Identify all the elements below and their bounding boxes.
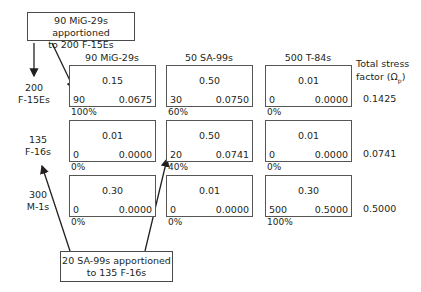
cell-percent: 0% bbox=[71, 162, 85, 172]
cell-stress: 0.0000 bbox=[119, 204, 152, 215]
cell-count: 90 bbox=[73, 94, 85, 105]
cell-f15e-t84: 0.01 0 0.0000 bbox=[265, 65, 352, 107]
cell-value: 0.30 bbox=[266, 185, 351, 196]
callout-bottom: 20 SA-99s apportioned to 135 F-16s bbox=[60, 251, 173, 282]
cell-count: 20 bbox=[170, 149, 182, 160]
column-header-t84: 500 T-84s bbox=[264, 52, 352, 63]
cell-value: 0.50 bbox=[167, 75, 252, 86]
cell-value: 0.01 bbox=[167, 185, 252, 196]
cell-count: 30 bbox=[170, 94, 182, 105]
total-stress-header: Total stress factor (Ωp) bbox=[356, 57, 409, 87]
cell-percent: 0% bbox=[267, 162, 281, 172]
cell-f16-mig29: 0.01 0 0.0000 bbox=[69, 120, 156, 162]
row-label-m1s: 300M-1s bbox=[18, 189, 58, 213]
column-header-mig29: 90 MiG-29s bbox=[68, 52, 156, 63]
cell-stress: 0.0000 bbox=[119, 149, 152, 160]
row-total-f15es: 0.1425 bbox=[363, 93, 396, 104]
cell-value: 0.50 bbox=[167, 130, 252, 141]
cell-f16-sa99: 0.50 20 0.0741 bbox=[166, 120, 253, 162]
cell-value: 0.01 bbox=[266, 130, 351, 141]
callout-top: 90 MiG-29s apportioned to 200 F-15Es bbox=[27, 12, 135, 41]
cell-percent: 60% bbox=[168, 107, 188, 117]
row-total-f16s: 0.0741 bbox=[363, 148, 396, 159]
cell-percent: 0% bbox=[267, 107, 281, 117]
cell-count: 0 bbox=[73, 149, 79, 160]
cell-value: 0.30 bbox=[70, 185, 155, 196]
cell-stress: 0.0000 bbox=[216, 204, 249, 215]
cell-stress: 0.0750 bbox=[216, 94, 249, 105]
cell-f15e-mig29: 0.15 90 0.0675 bbox=[69, 65, 156, 107]
cell-f16-t84: 0.01 0 0.0000 bbox=[265, 120, 352, 162]
cell-stress: 0.5000 bbox=[315, 204, 348, 215]
cell-stress: 0.0675 bbox=[119, 94, 152, 105]
cell-count: 0 bbox=[269, 94, 275, 105]
cell-percent: 0% bbox=[71, 217, 85, 227]
cell-percent: 0% bbox=[168, 217, 182, 227]
callout-bottom-line2: to 135 F-16s bbox=[61, 267, 172, 279]
cell-stress: 0.0741 bbox=[216, 149, 249, 160]
cell-m1-sa99: 0.01 0 0.0000 bbox=[166, 175, 253, 217]
callout-bottom-line1: 20 SA-99s apportioned bbox=[61, 255, 172, 267]
cell-m1-t84: 0.30 500 0.5000 bbox=[265, 175, 352, 217]
cell-count: 0 bbox=[170, 204, 176, 215]
column-header-sa99: 50 SA-99s bbox=[165, 52, 253, 63]
row-label-f16s: 135F-16s bbox=[18, 134, 58, 158]
cell-percent: 100% bbox=[71, 107, 97, 117]
cell-value: 0.01 bbox=[266, 75, 351, 86]
cell-count: 0 bbox=[269, 149, 275, 160]
cell-count: 0 bbox=[73, 204, 79, 215]
cell-stress: 0.0000 bbox=[315, 94, 348, 105]
row-total-m1s: 0.5000 bbox=[363, 203, 396, 214]
row-label-f15es: 200F-15Es bbox=[14, 82, 54, 106]
cell-stress: 0.0000 bbox=[315, 149, 348, 160]
cell-m1-mig29: 0.30 0 0.0000 bbox=[69, 175, 156, 217]
callout-top-line1: 90 MiG-29s apportioned bbox=[28, 15, 134, 39]
cell-count: 500 bbox=[269, 204, 287, 215]
cell-percent: 40% bbox=[168, 162, 188, 172]
cell-value: 0.01 bbox=[70, 130, 155, 141]
cell-value: 0.15 bbox=[70, 75, 155, 86]
cell-f15e-sa99: 0.50 30 0.0750 bbox=[166, 65, 253, 107]
cell-percent: 100% bbox=[267, 217, 293, 227]
callout-top-line2: to 200 F-15Es bbox=[28, 39, 134, 51]
